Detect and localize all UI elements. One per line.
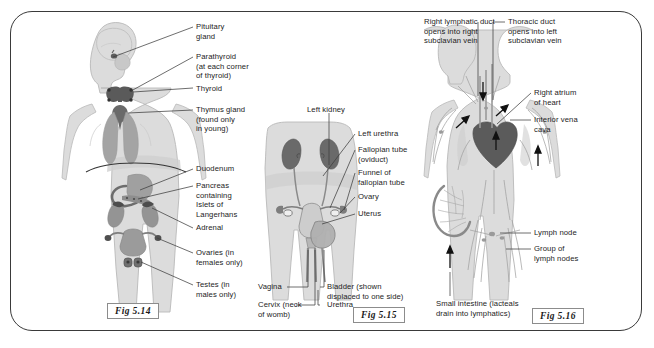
label-urethra: Urethra bbox=[327, 300, 353, 310]
label-left-urethra: Left urethra bbox=[358, 129, 398, 139]
label-right-atrium-of-heart: Right atrium of heart bbox=[534, 88, 576, 107]
label-bladder: Bladder (shown displaced to one side) bbox=[327, 282, 403, 301]
label-group-of-lymph-nodes: Group of lymph nodes bbox=[534, 244, 578, 263]
fig-caption-5-14: Fig 5.14 bbox=[107, 303, 159, 319]
label-lymph-node: Lymph node bbox=[534, 228, 577, 238]
label-ovaries: Ovaries (in females only) bbox=[196, 248, 243, 267]
label-cervix: Cervix (neck of womb) bbox=[258, 300, 302, 319]
label-thymus-gland: Thymus gland (found only in young) bbox=[196, 105, 245, 134]
label-ovary: Ovary bbox=[358, 192, 379, 202]
label-pancreas: Pancreas containing Islets of Langerhans bbox=[196, 181, 237, 219]
label-small-intestine: Small intestine (lacteals drain into lym… bbox=[436, 299, 519, 318]
label-adrenal: Adrenal bbox=[196, 223, 223, 233]
label-right-lymphatic-duct: Right lymphatic duct opens into right su… bbox=[424, 17, 495, 46]
label-testes: Testes (in males only) bbox=[196, 280, 236, 299]
label-thyroid: Thyroid bbox=[196, 84, 222, 94]
label-thoracic-duct: Thoracic duct opens into left subclavian… bbox=[508, 17, 562, 46]
label-funnel-of-fallopian-tube: Funnel of fallopian tube bbox=[358, 168, 405, 187]
label-duodenum: Duodenum bbox=[196, 164, 234, 174]
figure-plate-page: Pituitary gland Parathyroid (at each cor… bbox=[0, 0, 654, 348]
label-left-kidney: Left kidney bbox=[307, 105, 345, 115]
label-vagina: Vagina bbox=[258, 282, 282, 292]
label-pituitary-gland: Pituitary gland bbox=[196, 22, 224, 41]
fig-caption-5-16: Fig 5.16 bbox=[532, 308, 584, 324]
label-interior-vena-cava: Interior vena cava bbox=[534, 115, 578, 134]
label-uterus: Uterus bbox=[358, 209, 381, 219]
plate-frame-border bbox=[10, 11, 642, 331]
fig-caption-5-15: Fig 5.15 bbox=[353, 307, 405, 323]
label-fallopian-tube: Fallopian tube (oviduct) bbox=[358, 145, 407, 164]
label-parathyroid: Parathyroid (at each corner of thyroid) bbox=[196, 52, 249, 81]
